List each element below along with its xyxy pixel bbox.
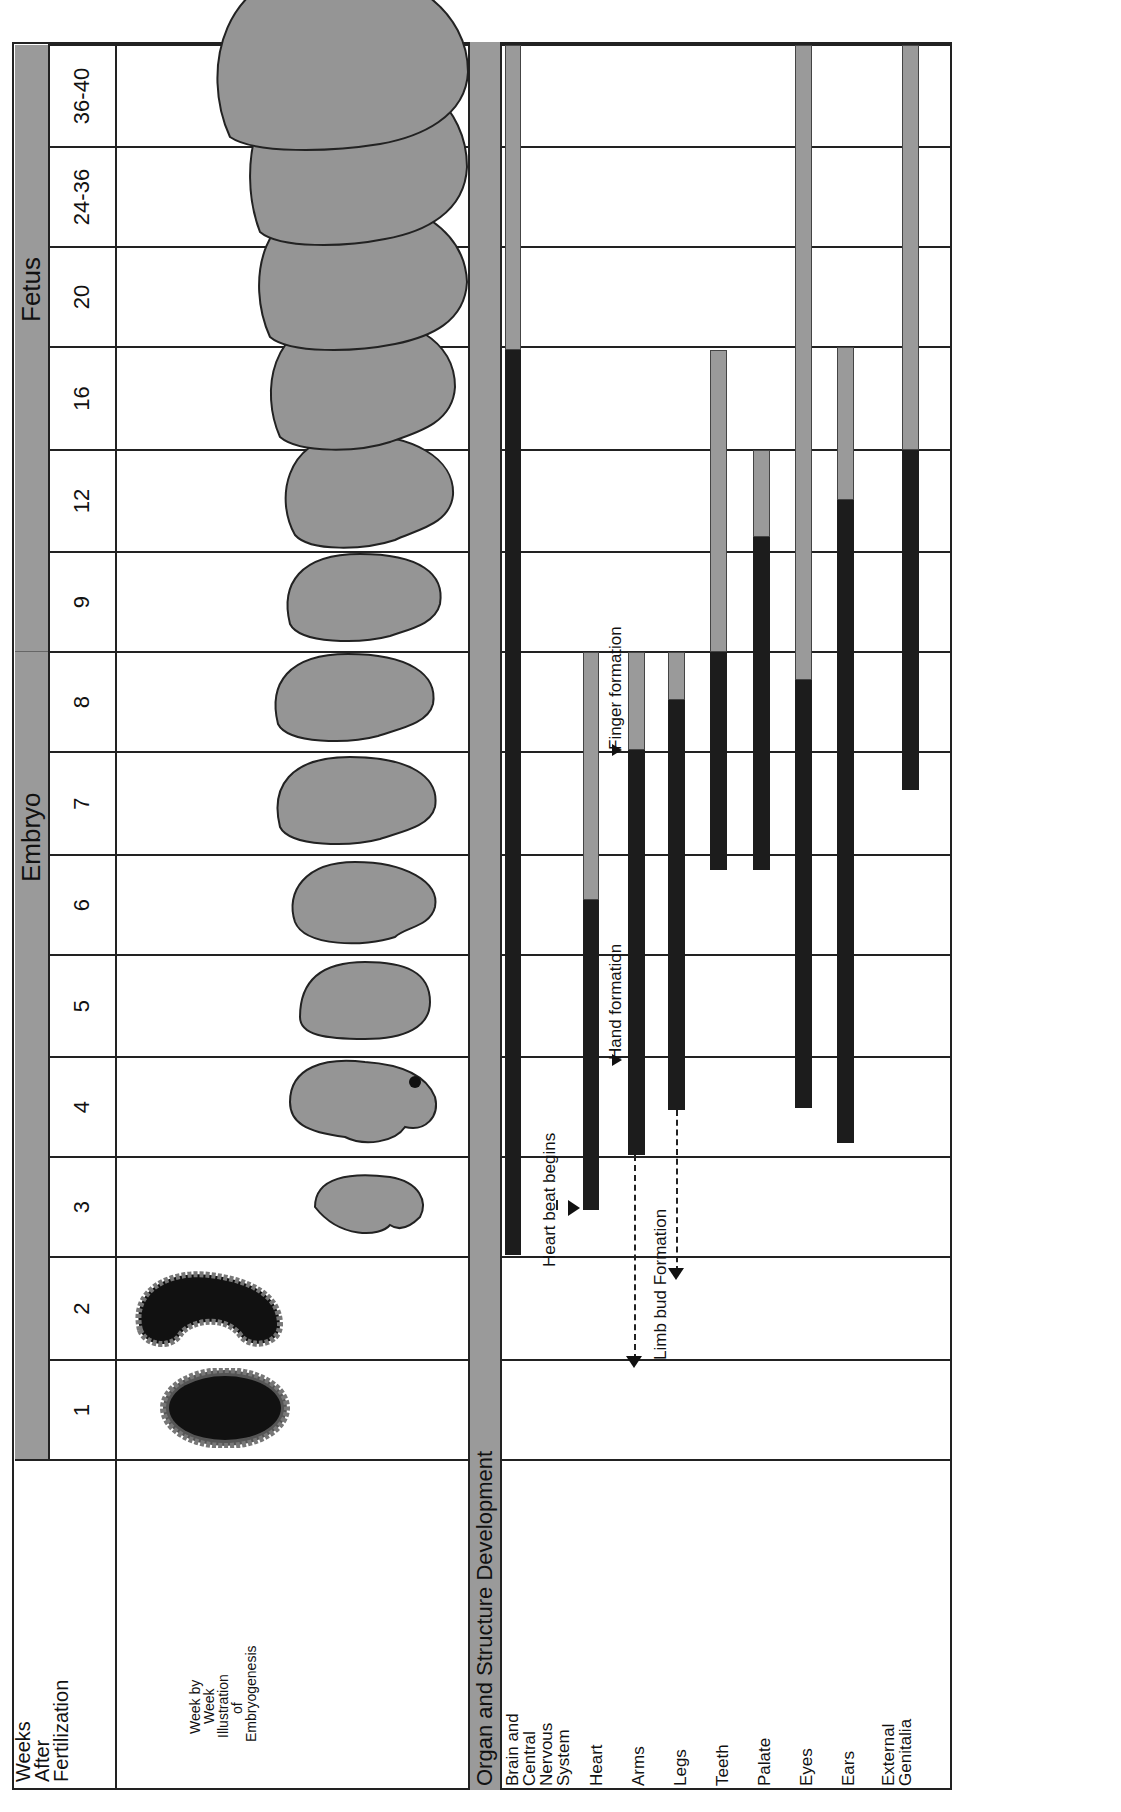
hand-formation-arrow-icon: [612, 1054, 622, 1066]
week-divider: [500, 954, 952, 956]
week-number: 24-36: [48, 147, 115, 247]
finger-formation-label: Finger formation: [606, 626, 626, 750]
limb-bud-legs-arrow-icon: [668, 1268, 684, 1280]
limb-bud-arms-leader: [634, 1155, 636, 1360]
sensitive-period-bar: [668, 652, 685, 700]
row-divider: [115, 42, 117, 1790]
week-number: 12: [48, 450, 115, 552]
week-number: 3: [48, 1157, 115, 1257]
embryogenesis-chart: Embryo Fetus Weeks After Fertilization W…: [0, 0, 1121, 1812]
critical-period-bar: [710, 652, 727, 870]
sensitive-period-bar: [710, 350, 727, 652]
blastocyst-week1-icon: [155, 1368, 295, 1448]
limb-bud-arms-arrow-icon: [626, 1356, 642, 1368]
illustration-label: Week by Week Illustration of Embryogenes…: [188, 1472, 258, 1772]
week-number: 6: [48, 855, 115, 955]
week-divider: [500, 146, 952, 148]
week-number: 1: [48, 1360, 115, 1460]
week-number: 36-40: [48, 45, 115, 147]
week-number: 2: [48, 1257, 115, 1360]
organ-row-label: Legs: [672, 1749, 689, 1786]
critical-period-bar: [795, 680, 812, 1108]
fetus-week36-40-icon: [200, 0, 470, 152]
weeks-after-fertilization-label: Weeks After Fertilization: [14, 1462, 71, 1782]
limb-bud-legs-leader: [676, 1110, 678, 1272]
critical-period-bar: [628, 750, 645, 1155]
week-divider: [500, 246, 952, 248]
heart-beat-leader: [556, 1200, 558, 1210]
stage-label-fetus: Fetus: [15, 257, 48, 322]
organ-row-label: Teeth: [714, 1744, 731, 1786]
week-divider: [500, 1359, 952, 1361]
stage-band-embryo: [15, 652, 48, 1460]
embryo-week5-icon: [295, 957, 435, 1047]
sensitive-period-bar: [505, 45, 521, 350]
critical-period-bar: [753, 537, 770, 870]
limb-bud-label: Limb bud Formation: [651, 1209, 671, 1360]
organ-row-label: Brain andCentralNervousSystem: [504, 1713, 572, 1786]
stage-band-fetus: [15, 45, 48, 652]
week-divider: [500, 346, 952, 348]
organ-section-title: Organ and Structure Development: [473, 1451, 497, 1786]
critical-period-bar: [837, 500, 854, 1143]
embryo-week7-icon: [270, 752, 445, 847]
critical-period-bar: [583, 900, 599, 1210]
organ-row-label: Palate: [756, 1738, 773, 1786]
organ-row-label: Eyes: [798, 1748, 815, 1786]
organ-row-label: ExternalGenitalia: [880, 1719, 914, 1786]
critical-period-bar: [505, 350, 521, 1255]
critical-period-bar: [668, 700, 685, 1110]
week-divider: [500, 1156, 952, 1158]
sensitive-period-bar: [583, 652, 599, 900]
sensitive-period-bar: [795, 45, 812, 680]
heart-beat-arrow-icon: [568, 1200, 580, 1216]
week-number: 5: [48, 955, 115, 1057]
week-divider: [500, 1256, 952, 1258]
embryo-week8-icon: [268, 649, 443, 744]
week-number: 20: [48, 247, 115, 347]
fetus-week9-icon: [280, 549, 450, 644]
hand-formation-label: Hand formation: [606, 944, 626, 1060]
embryo-week3-icon: [310, 1167, 430, 1247]
week-number: 7: [48, 752, 115, 855]
organ-row-label: Ears: [840, 1751, 857, 1786]
sensitive-period-bar: [753, 450, 770, 537]
critical-period-bar: [902, 450, 919, 790]
week-divider: [500, 1459, 952, 1461]
week-number: 16: [48, 347, 115, 450]
week-divider: [500, 1056, 952, 1058]
sensitive-period-bar: [628, 652, 645, 750]
organ-row-label: Arms: [630, 1746, 647, 1786]
sensitive-period-bar: [837, 347, 854, 500]
organ-row-label: Heart: [588, 1744, 605, 1786]
finger-formation-arrow-icon: [612, 744, 622, 756]
sensitive-period-bar: [902, 45, 919, 450]
week-divider: [500, 44, 952, 46]
embryo-week6-icon: [285, 857, 445, 947]
stage-label-embryo: Embryo: [15, 792, 48, 882]
week-number: 4: [48, 1057, 115, 1157]
week-number: 9: [48, 552, 115, 652]
embryo-week4-icon: [285, 1052, 445, 1152]
row-divider: [500, 42, 502, 1790]
week-number: 8: [48, 652, 115, 752]
embryo-week2-icon: [130, 1260, 290, 1350]
